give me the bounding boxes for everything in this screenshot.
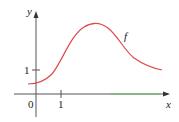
curve-f [28,23,162,84]
y-axis-arrow-icon [34,11,39,18]
function-graph: y x 0 1 1 f [0,0,179,122]
graph-canvas [0,0,179,122]
x-tick-label-1: 1 [58,99,64,110]
curve-label-f: f [124,31,127,42]
y-tick-label-1: 1 [24,65,30,76]
x-axis-label: x [166,99,171,110]
origin-label: 0 [28,99,34,110]
y-axis-label: y [27,6,32,17]
x-axis-arrow-icon [163,92,170,97]
